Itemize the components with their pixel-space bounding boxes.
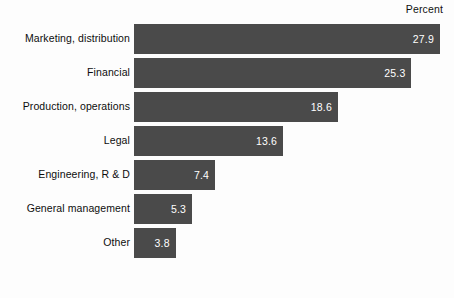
bar-wrapper: 3.8 <box>134 228 176 258</box>
bar-row: Financial25.3 <box>0 56 454 90</box>
bar-wrapper: 5.3 <box>134 194 192 224</box>
bar: 5.3 <box>134 194 192 224</box>
bar: 13.6 <box>134 126 283 156</box>
bar-row: Marketing, distribution27.9 <box>0 22 454 56</box>
bar: 25.3 <box>134 58 411 88</box>
bar: 3.8 <box>134 228 176 258</box>
bar-wrapper: 18.6 <box>134 92 338 122</box>
bar-value-label: 18.6 <box>311 92 332 122</box>
bar-category-label: Engineering, R & D <box>0 158 130 190</box>
bar-chart: Percent Marketing, distribution27.9Finan… <box>0 0 454 298</box>
bar-wrapper: 27.9 <box>134 24 440 54</box>
bar-category-label: Production, operations <box>0 90 130 122</box>
bar: 7.4 <box>134 160 215 190</box>
bar-wrapper: 7.4 <box>134 160 215 190</box>
bar: 27.9 <box>134 24 440 54</box>
bar-value-label: 13.6 <box>256 126 277 156</box>
bar-wrapper: 25.3 <box>134 58 411 88</box>
bar-category-label: Legal <box>0 124 130 156</box>
percent-axis-label: Percent <box>0 3 443 15</box>
bar-category-label: Financial <box>0 56 130 88</box>
bars-container: Marketing, distribution27.9Financial25.3… <box>0 22 454 260</box>
bar: 18.6 <box>134 92 338 122</box>
bar-row: Legal13.6 <box>0 124 454 158</box>
bar-value-label: 3.8 <box>154 228 169 258</box>
bar-category-label: Marketing, distribution <box>0 22 130 54</box>
bar-category-label: Other <box>0 226 130 258</box>
bar-category-label: General management <box>0 192 130 224</box>
bar-row: Other3.8 <box>0 226 454 260</box>
bar-value-label: 7.4 <box>194 160 209 190</box>
bar-value-label: 25.3 <box>384 58 405 88</box>
bar-value-label: 5.3 <box>171 194 186 224</box>
bar-value-label: 27.9 <box>413 24 434 54</box>
bar-row: General management5.3 <box>0 192 454 226</box>
bar-wrapper: 13.6 <box>134 126 283 156</box>
bar-row: Production, operations18.6 <box>0 90 454 124</box>
bar-row: Engineering, R & D7.4 <box>0 158 454 192</box>
